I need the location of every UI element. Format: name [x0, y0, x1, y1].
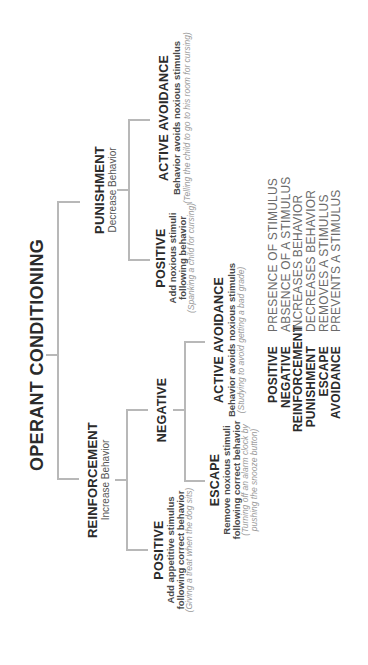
- escape-example-line2: pushing the snooze button): [250, 421, 259, 540]
- punishment-active-avoidance-example: (Telling the child to go to his room for…: [183, 32, 192, 204]
- legend-definition: PRESENCE OF STIMULUS: [267, 178, 280, 332]
- legend-row: POSITIVE PRESENCE OF STIMULUS: [267, 176, 280, 432]
- node-negative-active-avoidance: ACTIVE AVOIDANCE Behavior avoids noxious…: [213, 263, 246, 417]
- legend-definition: DECREASES BEHAVIOR: [305, 190, 318, 332]
- node-punishment-active-avoidance: ACTIVE AVOIDANCE Behavior avoids noxious…: [158, 32, 192, 204]
- legend-row: AVOIDANCE PREVENTS A STIMULUS: [330, 176, 343, 432]
- node-negative: NEGATIVE: [156, 378, 169, 443]
- reinforcement-positive-example: (Giving a treat when the dog sits): [185, 488, 194, 613]
- negative-active-avoidance-title: ACTIVE AVOIDANCE: [213, 263, 226, 417]
- legend-term: AVOIDANCE: [330, 332, 343, 432]
- legend: POSITIVE PRESENCE OF STIMULUS NEGATIVE A…: [267, 176, 343, 432]
- legend-term: POSITIVE: [267, 332, 280, 432]
- bracket-reinforcement: [126, 409, 128, 551]
- connector-to-punishment-positive: [128, 259, 150, 261]
- connector-to-reinforcement: [57, 478, 79, 480]
- legend-term: PUNISHMENT: [305, 332, 318, 432]
- punishment-positive-example: (Spanking a child for cursing): [187, 203, 196, 313]
- bracket-negative: [184, 341, 186, 482]
- connector-negative-out: [173, 409, 184, 411]
- reinforcement-subtitle: Increase Behavior: [100, 422, 111, 538]
- connector-punishment-out: [117, 189, 128, 191]
- operant-conditioning-diagram: OPERANT CONDITIONING PUNISHMENT Decrease…: [0, 0, 368, 665]
- punishment-active-avoidance-title: ACTIVE AVOIDANCE: [158, 32, 171, 204]
- node-punishment: PUNISHMENT Decrease Behavior: [93, 146, 118, 234]
- connector-to-punishment: [57, 201, 80, 203]
- node-escape: ESCAPE Remove noxious stimuli following …: [209, 421, 259, 540]
- negative-active-avoidance-example: (Studying to avoid getting a bad grade): [237, 263, 246, 417]
- node-punishment-positive: POSITIVE Add noxious stimuli following b…: [155, 203, 196, 313]
- legend-definition: PREVENTS A STIMULUS: [330, 189, 343, 332]
- punishment-subtitle: Decrease Behavior: [107, 146, 118, 234]
- bracket-punishment: [128, 119, 130, 261]
- legend-row: PUNISHMENT DECREASES BEHAVIOR: [305, 176, 318, 432]
- connector-to-punishment-active-avoidance: [128, 119, 150, 121]
- connector-to-negative: [126, 409, 148, 411]
- reinforcement-title: REINFORCEMENT: [86, 422, 100, 538]
- bracket-root: [57, 201, 59, 480]
- connector-to-reinforcement-positive: [126, 549, 148, 551]
- connector-to-negative-active-avoidance: [184, 341, 205, 343]
- punishment-title: PUNISHMENT: [93, 146, 107, 234]
- node-reinforcement-positive: POSITIVE Add appetitive stimulus followi…: [153, 488, 194, 613]
- diagram-title: OPERANT CONDITIONING: [28, 239, 46, 471]
- connector-to-escape: [184, 480, 205, 482]
- node-reinforcement: REINFORCEMENT Increase Behavior: [86, 422, 111, 538]
